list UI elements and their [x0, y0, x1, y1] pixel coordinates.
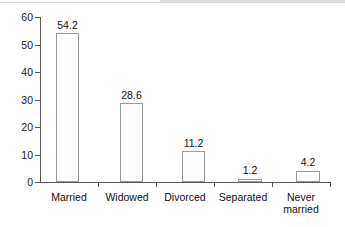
- x-axis-line: [40, 182, 331, 183]
- y-tick-label: 50: [3, 40, 33, 50]
- bar-value-label-never-married: 4.2: [287, 157, 329, 168]
- x-category-label-widowed: Widowed: [98, 191, 156, 203]
- y-tick-label-wrap: 20: [0, 122, 33, 132]
- chart-page: 60 50 40 30 20 10 0: [0, 0, 345, 227]
- x-tick-mark: [156, 182, 157, 187]
- y-tick-label-wrap: 50: [0, 40, 33, 50]
- y-tick-label: 30: [3, 95, 33, 105]
- y-tick-label-wrap: 0: [0, 177, 33, 187]
- y-tick-label-wrap: 60: [0, 12, 33, 22]
- bar-value-label-divorced: 11.2: [173, 138, 214, 149]
- y-tick-mark: [35, 100, 40, 101]
- x-category-label-separated: Separated: [214, 191, 272, 203]
- y-tick-label: 0: [3, 177, 33, 187]
- bar-separated: [238, 179, 262, 182]
- bar-chart-plot-area: 60 50 40 30 20 10 0: [0, 0, 345, 227]
- y-tick-label: 10: [3, 150, 33, 160]
- y-tick-label-wrap: 40: [0, 67, 33, 77]
- x-tick-mark: [98, 182, 99, 187]
- bar-widowed: [120, 103, 143, 182]
- y-tick-mark: [35, 45, 40, 46]
- y-tick-label: 60: [3, 12, 33, 22]
- y-axis-line: [40, 17, 41, 183]
- bar-never-married: [296, 171, 320, 183]
- y-tick-mark: [35, 127, 40, 128]
- y-tick-mark: [35, 182, 40, 183]
- y-tick-label-wrap: 10: [0, 150, 33, 160]
- bar-divorced: [182, 151, 205, 182]
- x-tick-mark: [272, 182, 273, 187]
- y-tick-label: 40: [3, 67, 33, 77]
- bar-value-label-widowed: 28.6: [111, 90, 152, 101]
- y-tick-mark: [35, 155, 40, 156]
- y-tick-mark: [35, 72, 40, 73]
- bar-value-label-married: 54.2: [47, 20, 88, 31]
- x-category-label-never-married: Never married: [272, 191, 330, 215]
- x-tick-mark: [214, 182, 215, 187]
- y-tick-mark: [35, 17, 40, 18]
- y-tick-label: 20: [3, 122, 33, 132]
- bar-value-label-separated: 1.2: [229, 165, 271, 176]
- bar-married: [56, 33, 79, 182]
- x-category-label-married: Married: [40, 191, 98, 203]
- x-tick-mark: [330, 182, 331, 187]
- y-tick-label-wrap: 30: [0, 95, 33, 105]
- x-category-label-divorced: Divorced: [156, 191, 214, 203]
